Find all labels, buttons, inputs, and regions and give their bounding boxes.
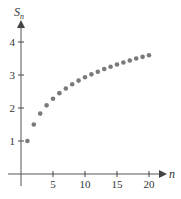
data-point [140,55,145,60]
y-tick-label: 1 [10,135,16,147]
y-tick-label: 2 [10,102,16,114]
data-point [25,139,30,144]
data-point [121,60,126,65]
data-point [115,62,120,67]
x-axis-label: n [169,167,175,181]
x-tick-label: 15 [112,178,124,190]
x-tick-label: 10 [80,178,92,190]
data-point [102,67,107,72]
axes [8,22,165,186]
data-point [38,111,43,116]
y-axis-label: Sn [14,5,24,21]
y-ticks: 1234 [10,36,25,147]
data-point [44,103,49,108]
y-tick-label: 3 [10,69,16,81]
data-point [96,69,101,74]
sn-scatter-chart: 5101520 1234 n Sn [0,0,181,199]
data-point [32,122,37,127]
x-tick-label: 20 [144,178,156,190]
data-point [128,58,133,63]
data-points [25,53,151,143]
data-point [83,75,88,80]
y-tick-label: 4 [10,36,16,48]
data-point [147,53,152,58]
data-point [51,96,56,101]
data-point [76,78,81,83]
data-point [57,91,62,96]
data-point [134,56,139,61]
y-axis-label-subscript: n [20,12,24,21]
x-tick-label: 5 [50,178,56,190]
data-point [89,72,94,77]
data-point [70,82,75,87]
data-point [108,64,113,69]
data-point [64,86,69,91]
